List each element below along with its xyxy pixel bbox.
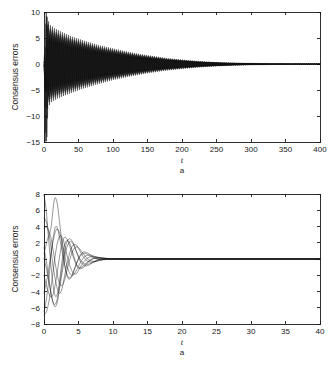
x-tick-label: 100 <box>106 145 120 154</box>
chart-svg-top: 050100150200250300350400−15−10−50510Cons… <box>0 0 335 183</box>
y-tick-label: 0 <box>36 255 41 264</box>
x-tick-label: 50 <box>74 145 83 154</box>
x-tick-label: 20 <box>178 327 187 336</box>
series-line <box>44 195 320 297</box>
x-tick-label: 10 <box>109 327 118 336</box>
series-line <box>44 198 320 279</box>
figure-container: 050100150200250300350400−15−10−50510Cons… <box>0 0 335 365</box>
x-tick-label: 30 <box>247 327 256 336</box>
series-group <box>44 13 320 142</box>
x-axis-label: t <box>181 155 184 165</box>
y-tick-label: 5 <box>36 34 41 43</box>
y-tick-label: 2 <box>36 239 41 248</box>
series-line <box>44 229 320 293</box>
x-axis-label: t <box>181 337 184 347</box>
x-tick-label: 35 <box>281 327 290 336</box>
x-tick-label: 0 <box>42 145 47 154</box>
chart-panel-bottom: 0510152025303540−8−6−4−202468Consensus e… <box>0 182 335 365</box>
series-line <box>44 235 320 315</box>
x-tick-label: 300 <box>244 145 258 154</box>
y-tick-label: −4 <box>31 288 41 297</box>
x-tick-label: 400 <box>313 145 327 154</box>
x-tick-label: 0 <box>42 327 47 336</box>
y-tick-label: −8 <box>31 320 41 329</box>
y-tick-label: 10 <box>31 8 40 17</box>
series-line <box>44 227 320 286</box>
y-axis-label: Consensus errors <box>10 225 20 292</box>
chart-svg-bottom: 0510152025303540−8−6−4−202468Consensus e… <box>0 182 335 365</box>
panel-caption: a <box>180 166 185 175</box>
series-line <box>44 242 320 307</box>
y-tick-label: 4 <box>36 223 41 232</box>
chart-panel-top: 050100150200250300350400−15−10−50510Cons… <box>0 0 335 183</box>
x-tick-label: 15 <box>143 327 152 336</box>
y-tick-label: −5 <box>31 86 41 95</box>
series-line <box>44 239 320 305</box>
y-tick-label: −15 <box>26 138 40 147</box>
y-tick-label: 6 <box>36 206 41 215</box>
series-line <box>44 226 320 312</box>
x-tick-label: 150 <box>141 145 155 154</box>
panel-caption: a <box>180 348 185 357</box>
y-tick-label: −10 <box>26 112 40 121</box>
y-tick-label: 0 <box>36 60 41 69</box>
x-tick-label: 40 <box>316 327 325 336</box>
x-tick-label: 25 <box>212 327 221 336</box>
x-tick-label: 5 <box>76 327 81 336</box>
x-tick-label: 350 <box>279 145 293 154</box>
series-group <box>44 195 320 315</box>
x-tick-label: 250 <box>210 145 224 154</box>
y-tick-label: 8 <box>36 190 41 199</box>
y-tick-label: −2 <box>31 271 41 280</box>
x-tick-label: 200 <box>175 145 189 154</box>
series-line <box>44 237 320 297</box>
y-tick-label: −6 <box>31 304 41 313</box>
series-line <box>44 218 320 294</box>
y-axis-label: Consensus errors <box>10 43 20 110</box>
